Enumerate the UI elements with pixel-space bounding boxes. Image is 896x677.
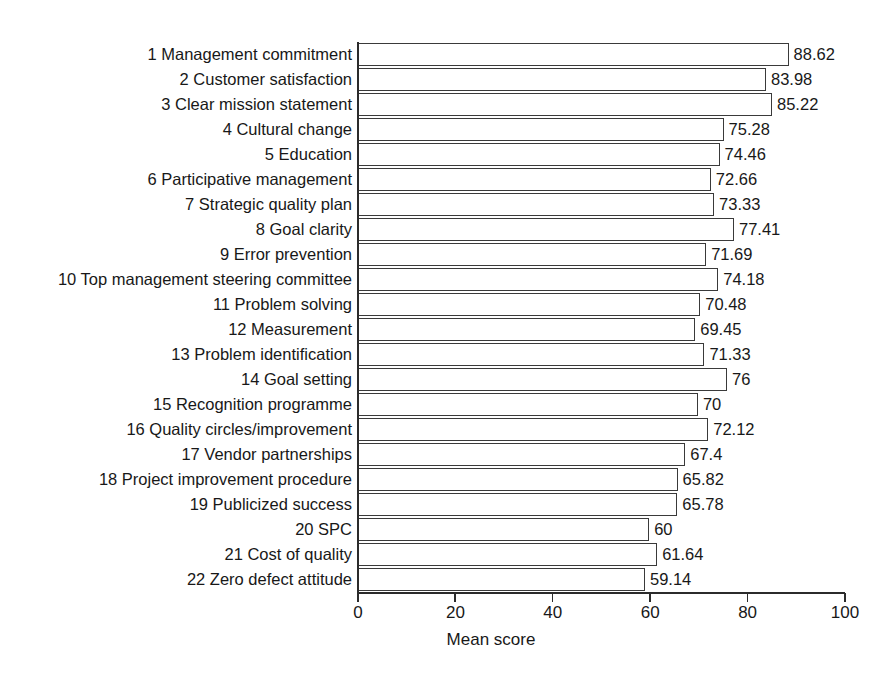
- bar: [357, 93, 772, 116]
- bar-value-label: 69.45: [700, 317, 741, 342]
- bar-row: 76: [357, 367, 844, 392]
- x-axis-tick: [649, 593, 651, 602]
- bar: [357, 568, 645, 591]
- y-axis-category-labels: 1 Management commitment2 Customer satisf…: [0, 42, 352, 592]
- x-axis-tick-label: 40: [543, 603, 562, 623]
- bar: [357, 518, 649, 541]
- bar: [357, 343, 704, 366]
- bar: [357, 68, 766, 91]
- y-axis-category-label: 1 Management commitment: [147, 42, 352, 67]
- y-axis-category-label: 3 Clear mission statement: [161, 92, 352, 117]
- y-axis-category-label: 12 Measurement: [228, 317, 352, 342]
- bar-value-label: 71.33: [709, 342, 750, 367]
- y-axis-category-label: 20 SPC: [295, 517, 352, 542]
- bar-row: 70: [357, 392, 844, 417]
- y-axis-category-label: 7 Strategic quality plan: [185, 192, 352, 217]
- y-axis-category-label: 13 Problem identification: [171, 342, 352, 367]
- y-axis-category-label: 18 Project improvement procedure: [99, 467, 352, 492]
- y-axis-category-label: 8 Goal clarity: [256, 217, 352, 242]
- bar-row: 77.41: [357, 217, 844, 242]
- bar: [357, 193, 714, 216]
- bar-value-label: 73.33: [719, 192, 760, 217]
- bar-value-label: 85.22: [777, 92, 818, 117]
- bar-row: 71.33: [357, 342, 844, 367]
- y-axis-category-label: 2 Customer satisfaction: [180, 67, 352, 92]
- bar-value-label: 72.66: [716, 167, 757, 192]
- bar: [357, 318, 695, 341]
- bar-value-label: 71.69: [711, 242, 752, 267]
- bar: [357, 368, 727, 391]
- bar-value-label: 74.18: [723, 267, 764, 292]
- x-axis-title: Mean score: [0, 630, 896, 650]
- bar-row: 70.48: [357, 292, 844, 317]
- bar-row: 73.33: [357, 192, 844, 217]
- y-axis-category-label: 11 Problem solving: [213, 292, 352, 317]
- bar-row: 69.45: [357, 317, 844, 342]
- bar-row: 59.14: [357, 567, 844, 592]
- y-axis-category-label: 22 Zero defect attitude: [187, 567, 352, 592]
- bar-value-label: 77.41: [739, 217, 780, 242]
- bar-value-label: 76: [732, 367, 750, 392]
- bar-row: 72.12: [357, 417, 844, 442]
- bar-row: 65.78: [357, 492, 844, 517]
- bar-row: 65.82: [357, 467, 844, 492]
- bar: [357, 543, 657, 566]
- bar-row: 88.62: [357, 42, 844, 67]
- bar-value-label: 60: [654, 517, 672, 542]
- bar-row: 83.98: [357, 67, 844, 92]
- bar-row: 67.4: [357, 442, 844, 467]
- bar: [357, 443, 685, 466]
- y-axis-category-label: 16 Quality circles/improvement: [126, 417, 352, 442]
- bar-value-label: 88.62: [794, 42, 835, 67]
- y-axis-category-label: 14 Goal setting: [241, 367, 352, 392]
- bar: [357, 268, 718, 291]
- y-axis-line: [357, 42, 359, 593]
- bar: [357, 43, 789, 66]
- bar-row: 74.46: [357, 142, 844, 167]
- y-axis-category-label: 19 Publicized success: [190, 492, 352, 517]
- bar-value-label: 61.64: [662, 542, 703, 567]
- bar: [357, 418, 708, 441]
- y-axis-category-label: 17 Vendor partnerships: [181, 442, 352, 467]
- bar-value-label: 83.98: [771, 67, 812, 92]
- x-axis-tick: [747, 593, 749, 602]
- x-axis-tick: [357, 593, 359, 602]
- x-axis-tick: [454, 593, 456, 602]
- bar-value-label: 75.28: [729, 117, 770, 142]
- y-axis-category-label: 4 Cultural change: [223, 117, 352, 142]
- bar-value-label: 70.48: [705, 292, 746, 317]
- y-axis-category-label: 9 Error prevention: [220, 242, 352, 267]
- bar-row: 72.66: [357, 167, 844, 192]
- x-axis-tick-label: 0: [353, 603, 362, 623]
- x-axis-tick: [552, 593, 554, 602]
- bar-row: 85.22: [357, 92, 844, 117]
- bar-row: 74.18: [357, 267, 844, 292]
- bar: [357, 293, 700, 316]
- bar-row: 71.69: [357, 242, 844, 267]
- bar-value-label: 74.46: [725, 142, 766, 167]
- bar-value-label: 70: [703, 392, 721, 417]
- x-axis-line: [357, 592, 845, 594]
- bar-value-label: 59.14: [650, 567, 691, 592]
- bar-chart: 1 Management commitment2 Customer satisf…: [0, 0, 896, 677]
- bar: [357, 168, 711, 191]
- x-axis-tick-label: 60: [641, 603, 660, 623]
- bar: [357, 143, 720, 166]
- x-axis-tick-label: 20: [446, 603, 465, 623]
- bar-row: 75.28: [357, 117, 844, 142]
- y-axis-category-label: 21 Cost of quality: [225, 542, 353, 567]
- x-axis-title-text: Mean score: [447, 630, 536, 649]
- y-axis-category-label: 5 Education: [265, 142, 352, 167]
- plot-area: 88.6283.9885.2275.2874.4672.6673.3377.41…: [357, 42, 844, 592]
- bar: [357, 243, 706, 266]
- bar-value-label: 65.78: [682, 492, 723, 517]
- y-axis-category-label: 15 Recognition programme: [153, 392, 352, 417]
- bar-value-label: 72.12: [713, 417, 754, 442]
- bar: [357, 493, 677, 516]
- bar-value-label: 65.82: [683, 467, 724, 492]
- y-axis-category-label: 10 Top management steering committee: [58, 267, 352, 292]
- bar: [357, 393, 698, 416]
- x-axis-tick-label: 80: [738, 603, 757, 623]
- bar-value-label: 67.4: [690, 442, 722, 467]
- bar: [357, 468, 678, 491]
